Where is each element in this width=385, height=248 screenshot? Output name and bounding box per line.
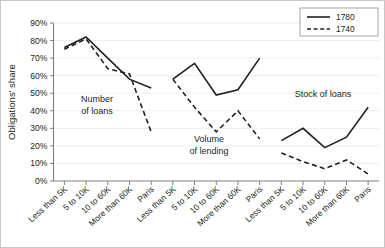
y-axis-ticks: 0%10%20%30%40%50%60%70%80%90%	[30, 18, 53, 186]
y-tick-label: 0%	[35, 176, 48, 186]
y-tick-label: 20%	[30, 141, 48, 151]
panel-label: Number	[81, 94, 113, 104]
x-axis-labels: Less than 5K5 to 10K10 to 60KMore than 6…	[26, 184, 373, 228]
svg-text:Obligations' share: Obligations' share	[6, 64, 17, 140]
series-line-1780	[173, 58, 260, 95]
y-tick-label: 60%	[30, 71, 48, 81]
series-line-1740	[173, 79, 260, 139]
panel-label: of lending	[189, 146, 228, 156]
y-tick-label: 70%	[30, 53, 48, 63]
legend-label[interactable]: 1780	[336, 12, 355, 22]
y-tick-label: 40%	[30, 106, 48, 116]
line-chart: 0%10%20%30%40%50%60%70%80%90% Obligation…	[1, 1, 385, 248]
x-tick-label: Paris	[352, 184, 373, 204]
y-tick-label: 80%	[30, 36, 48, 46]
y-tick-label: 30%	[30, 123, 48, 133]
series-line-1780	[281, 107, 368, 147]
panel-label: Stock of loans	[295, 89, 352, 99]
panel-label: of loans	[81, 106, 113, 116]
chart-figure: 0%10%20%30%40%50%60%70%80%90% Obligation…	[0, 0, 385, 248]
y-tick-label: 50%	[30, 88, 48, 98]
series-line-1740	[64, 39, 151, 132]
panel-label: Volume	[194, 134, 224, 144]
chart-legend[interactable]: 17801740	[300, 8, 378, 36]
series-line-1780	[64, 37, 151, 88]
legend-label[interactable]: 1740	[336, 24, 355, 34]
y-axis-label: Obligations' share	[6, 64, 17, 140]
y-tick-label: 10%	[30, 158, 48, 168]
y-tick-label: 90%	[30, 18, 48, 28]
